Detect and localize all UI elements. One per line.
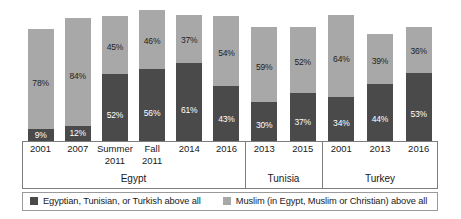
country-label-turkey: Turkey bbox=[322, 167, 438, 189]
bar-value-label-dark: 44% bbox=[367, 115, 393, 124]
x-tick-label: 2016 bbox=[208, 141, 245, 155]
tick-group-egypt: 20012007Summer2011Fall201120142016 bbox=[22, 141, 245, 167]
bar-segment-light: 39% bbox=[367, 34, 393, 84]
bar-value-label-dark: 37% bbox=[290, 118, 316, 127]
bar-value-label-dark: 52% bbox=[102, 111, 128, 120]
country-label-egypt: Egypt bbox=[22, 167, 245, 189]
legend-item-religious-identity: Muslim (in Egypt, Muslim or Christian) a… bbox=[223, 197, 428, 206]
bar-segment-dark: 44% bbox=[367, 84, 393, 141]
legend-swatch-light-icon bbox=[223, 197, 231, 205]
stacked-bar: 36%53% bbox=[406, 6, 432, 141]
bar-value-label-light: 45% bbox=[102, 43, 128, 52]
bar-segment-light: 59% bbox=[251, 27, 277, 103]
stacked-bar: 59%30% bbox=[251, 6, 277, 141]
stacked-bar: 45%52% bbox=[102, 6, 128, 141]
stacked-bar: 84%12% bbox=[65, 6, 91, 141]
x-tick-label: 2007 bbox=[59, 141, 96, 155]
bar-value-label-light: 64% bbox=[328, 55, 354, 64]
x-tick-label: Fall2011 bbox=[134, 141, 171, 166]
legend-swatch-dark-icon bbox=[30, 197, 38, 205]
x-tick-label: 2013 bbox=[245, 141, 284, 155]
legend-label-dark: Egyptian, Tunisian, or Turkish above all bbox=[43, 197, 201, 206]
stacked-bar: 37%61% bbox=[176, 6, 202, 141]
bar-segment-light: 54% bbox=[213, 16, 239, 85]
bar-segment-dark: 52% bbox=[102, 74, 128, 141]
bar-value-label-dark: 12% bbox=[65, 129, 91, 138]
stacked-bar: 54%43% bbox=[213, 6, 239, 141]
country-group-label-row: EgyptTunisiaTurkey bbox=[22, 167, 438, 189]
bar-value-label-light: 54% bbox=[213, 49, 239, 58]
bar-value-label-light: 59% bbox=[251, 63, 277, 72]
bar-segment-dark: 43% bbox=[213, 86, 239, 141]
tick-group-tunisia: 20132015 bbox=[245, 141, 322, 167]
bar-value-label-light: 46% bbox=[139, 37, 165, 46]
bar-segment-light: 36% bbox=[406, 27, 432, 73]
legend-label-light: Muslim (in Egypt, Muslim or Christian) a… bbox=[236, 197, 428, 206]
bar-value-label-dark: 61% bbox=[176, 106, 202, 115]
stacked-bar: 46%56% bbox=[139, 6, 165, 141]
bar-segment-dark: 53% bbox=[406, 73, 432, 141]
bar-segment-dark: 30% bbox=[251, 102, 277, 141]
bar-segment-light: 45% bbox=[102, 16, 128, 74]
bar-value-label-dark: 30% bbox=[251, 121, 277, 130]
bar-value-label-light: 36% bbox=[406, 47, 432, 56]
bar-group-egypt: 78%9%84%12%45%52%46%56%37%61%54%43% bbox=[22, 6, 245, 141]
bar-segment-dark: 9% bbox=[28, 129, 54, 141]
bar-segment-light: 84% bbox=[65, 18, 91, 126]
x-axis-tick-row: 20012007Summer2011Fall201120142016201320… bbox=[22, 141, 438, 167]
stacked-bar: 64%34% bbox=[328, 6, 354, 141]
bar-segment-light: 37% bbox=[176, 15, 202, 63]
bar-segment-dark: 37% bbox=[290, 93, 316, 141]
legend-item-national-identity: Egyptian, Tunisian, or Turkish above all bbox=[30, 197, 201, 206]
stacked-bar: 52%37% bbox=[290, 6, 316, 141]
bar-value-label-light: 78% bbox=[28, 79, 54, 88]
bar-segment-light: 46% bbox=[139, 10, 165, 69]
bar-value-label-dark: 53% bbox=[406, 110, 432, 119]
stacked-bar: 39%44% bbox=[367, 6, 393, 141]
stacked-bar: 78%9% bbox=[28, 6, 54, 141]
bar-group-turkey: 64%34%39%44%36%53% bbox=[322, 6, 438, 141]
bar-segment-dark: 61% bbox=[176, 63, 202, 141]
bar-segment-dark: 56% bbox=[139, 69, 165, 141]
bar-segment-dark: 12% bbox=[65, 126, 91, 141]
country-label-tunisia: Tunisia bbox=[245, 167, 322, 189]
bar-value-label-dark: 56% bbox=[139, 109, 165, 118]
bar-segment-light: 78% bbox=[28, 29, 54, 129]
bar-segment-light: 64% bbox=[328, 15, 354, 97]
bar-value-label-light: 84% bbox=[65, 72, 91, 81]
plot-area: 78%9%84%12%45%52%46%56%37%61%54%43%59%30… bbox=[22, 6, 438, 141]
x-tick-label: 2014 bbox=[171, 141, 208, 155]
bar-value-label-dark: 9% bbox=[28, 131, 54, 140]
x-tick-label: 2001 bbox=[22, 141, 59, 155]
bar-value-label-dark: 43% bbox=[213, 115, 239, 124]
bar-value-label-light: 39% bbox=[367, 57, 393, 66]
chart-legend: Egyptian, Tunisian, or Turkish above all… bbox=[22, 192, 438, 211]
bar-value-label-dark: 34% bbox=[328, 119, 354, 128]
stacked-bar-chart: 78%9%84%12%45%52%46%56%37%61%54%43%59%30… bbox=[0, 0, 461, 219]
x-tick-label: 2001 bbox=[322, 141, 361, 155]
bar-value-label-light: 52% bbox=[290, 58, 316, 67]
bar-group-tunisia: 59%30%52%37% bbox=[245, 6, 322, 141]
x-tick-label: 2013 bbox=[361, 141, 400, 155]
x-tick-label: 2016 bbox=[399, 141, 438, 155]
bar-segment-dark: 34% bbox=[328, 97, 354, 141]
x-tick-label: 2015 bbox=[284, 141, 323, 155]
bar-segment-light: 52% bbox=[290, 27, 316, 94]
x-tick-label: Summer2011 bbox=[96, 141, 133, 166]
tick-group-turkey: 200120132016 bbox=[322, 141, 438, 167]
bar-value-label-light: 37% bbox=[176, 36, 202, 45]
